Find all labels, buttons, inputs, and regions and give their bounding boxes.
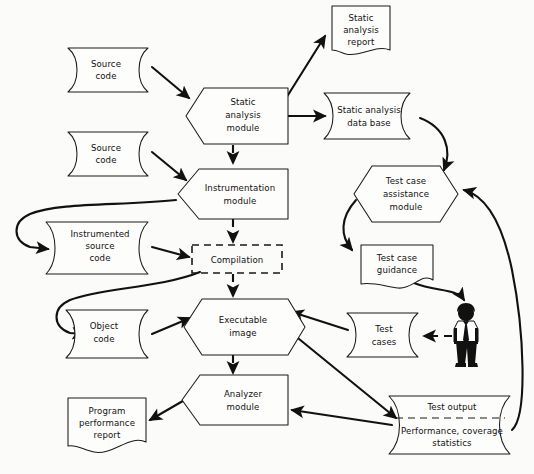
node-instrumented-source-code-line-0: Instrumented (70, 229, 129, 239)
node-tester-person-icon (454, 303, 478, 367)
node-analyzer-module-line-0: Analyzer (224, 389, 263, 399)
node-object-code-line-0: Object (90, 321, 119, 331)
node-executable-image-line-0: Executable (219, 315, 267, 325)
node-instrumented-source-code-line-1: source (85, 241, 114, 251)
node-instrumentation-module-line-1: module (224, 196, 257, 206)
node-test-output-line-1: Performance, coverage (401, 426, 503, 436)
node-program-performance-report[interactable]: Program performance report (68, 398, 146, 452)
node-static-analysis-module-line-0: Static (230, 97, 255, 107)
node-test-cases-line-0: Test (374, 324, 393, 334)
edge-test-output-to-analyzer-module (292, 410, 392, 425)
node-source-code-2-line-0: Source (91, 143, 121, 153)
node-instrumented-source-code-line-2: code (89, 253, 110, 263)
node-layer: Source code Source code Instrumented sou… (46, 6, 510, 454)
node-static-analysis-module-line-1: analysis (225, 110, 261, 120)
node-source-code-2-line-1: code (95, 155, 116, 165)
node-compilation-label: Compilation (211, 255, 264, 265)
node-object-code[interactable]: Object code (66, 310, 148, 358)
node-program-performance-report-line-1: performance (79, 418, 135, 428)
node-program-performance-report-line-0: Program (89, 406, 126, 416)
node-program-performance-report-line-2: report (94, 430, 121, 440)
edge-static-analysis-module-to-report (283, 36, 325, 103)
node-executable-image[interactable]: Executable image (184, 299, 305, 355)
node-static-analysis-module[interactable]: Static analysis module (186, 88, 288, 144)
node-test-output-title: Test output (426, 402, 477, 412)
node-analyzer-module[interactable]: Analyzer module (182, 375, 288, 425)
node-instrumented-source-code[interactable]: Instrumented source code (46, 222, 148, 274)
node-test-case-guidance[interactable]: Test case guidance (361, 245, 433, 288)
node-test-case-guidance-line-0: Test case (376, 253, 417, 263)
node-compilation[interactable]: Compilation (192, 245, 282, 273)
node-test-output[interactable]: Test output Performance, coverage statis… (389, 396, 510, 454)
node-static-analysis-data-base-line-1: data base (347, 118, 390, 128)
node-source-code-2[interactable]: Source code (68, 132, 148, 176)
node-static-analysis-report-line-1: analysis (343, 25, 379, 35)
node-source-code-1-line-1: code (95, 71, 116, 81)
node-static-analysis-report-line-0: Static (348, 13, 373, 23)
node-static-analysis-data-base-line-0: Static analysis (337, 105, 401, 115)
node-static-analysis-report-line-2: report (348, 37, 375, 47)
edge-instrumented-source-code-to-compilation (152, 247, 189, 257)
node-source-code-1[interactable]: Source code (68, 48, 148, 92)
edge-test-case-guidance-to-tester (414, 283, 464, 300)
edge-source-code-2-to-instrumentation-module (152, 152, 186, 180)
node-source-code-1-line-0: Source (91, 59, 121, 69)
edge-data-base-to-test-case-assistance-module (420, 118, 447, 170)
node-test-case-assistance-module-line-1: assistance (383, 189, 429, 199)
edge-source-code-1-to-static-analysis-module (152, 67, 189, 98)
node-instrumentation-module[interactable]: Instrumentation module (178, 169, 288, 219)
node-static-analysis-report[interactable]: Static analysis report (332, 6, 390, 55)
diagram-canvas: Source code Source code Instrumented sou… (0, 0, 534, 474)
edge-test-case-assistance-module-to-test-case-guidance (343, 200, 356, 250)
node-analyzer-module-line-1: module (227, 402, 260, 412)
node-test-case-assistance-module-line-0: Test case (385, 176, 426, 186)
node-test-case-assistance-module[interactable]: Test case assistance module (354, 166, 458, 222)
dataflow-diagram: Source code Source code Instrumented sou… (0, 0, 534, 474)
node-test-cases[interactable]: Test cases (347, 313, 418, 357)
node-executable-image-line-1: image (229, 328, 256, 338)
node-static-analysis-data-base[interactable]: Static analysis data base (324, 93, 410, 139)
node-object-code-line-1: code (93, 334, 114, 344)
node-static-analysis-module-line-2: module (227, 123, 260, 133)
node-test-case-assistance-module-line-2: module (390, 202, 423, 212)
node-test-output-line-2: statistics (432, 438, 472, 448)
node-instrumentation-module-line-0: Instrumentation (205, 183, 276, 193)
node-test-case-guidance-line-1: guidance (377, 265, 417, 275)
node-test-cases-line-1: cases (372, 337, 397, 347)
